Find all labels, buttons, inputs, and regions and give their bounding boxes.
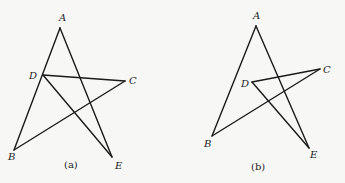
vertex-label-b: B [7, 151, 15, 162]
segment-de [43, 75, 112, 157]
vertex-label-e: E [309, 149, 318, 160]
vertex-label-a: A [252, 10, 260, 21]
figure-a: ABCDE(a) [7, 12, 137, 171]
segment-dc [43, 75, 125, 81]
vertex-label-c: C [323, 64, 331, 75]
segment-ab [212, 26, 256, 136]
vertex-label-c: C [129, 75, 137, 86]
figure-caption: (a) [64, 159, 78, 170]
segment-ae [60, 28, 112, 157]
vertex-label-b: B [203, 138, 211, 149]
figure-caption: (b) [251, 161, 265, 172]
vertex-label-e: E [114, 160, 123, 171]
vertex-label-d: D [28, 70, 37, 81]
segment-de [252, 82, 309, 148]
vertex-label-d: D [240, 78, 249, 89]
segment-ae [256, 26, 309, 148]
segment-ab [14, 28, 60, 150]
figure-b: ABCDE(b) [203, 10, 331, 172]
vertex-label-a: A [58, 12, 66, 23]
diagram-canvas: ABCDE(a) ABCDE(b) [0, 0, 345, 183]
segment-cb [14, 81, 125, 150]
